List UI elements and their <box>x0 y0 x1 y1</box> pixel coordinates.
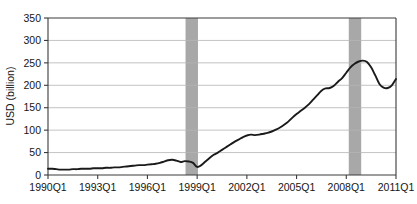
y-tick-label-0: 0 <box>35 169 41 181</box>
x-tick-label-2005Q1: 2005Q1 <box>278 181 316 193</box>
y-tick-label-150: 150 <box>23 101 41 113</box>
usd-billion-line-chart: 050100150200250300350 1990Q11993Q11996Q1… <box>0 0 417 204</box>
y-tick-label-350: 350 <box>23 12 41 24</box>
recession-band-1998 <box>186 18 198 175</box>
y-tick-label-300: 300 <box>23 34 41 46</box>
y-tick-label-100: 100 <box>23 124 41 136</box>
x-tick-label-1999Q1: 1999Q1 <box>178 181 216 193</box>
x-tick-label-2008Q1: 2008Q1 <box>328 181 366 193</box>
x-tick-label-1996Q1: 1996Q1 <box>129 181 167 193</box>
y-tick-label-200: 200 <box>23 79 41 91</box>
recession-band-2008 <box>349 18 361 175</box>
chart-container: 050100150200250300350 1990Q11993Q11996Q1… <box>0 0 417 204</box>
x-tick-label-1990Q1: 1990Q1 <box>29 181 67 193</box>
x-tick-label-2002Q1: 2002Q1 <box>228 181 266 193</box>
y-tick-label-250: 250 <box>23 57 41 69</box>
y-tick-label-50: 50 <box>29 146 41 158</box>
y-axis-title: USD (billion) <box>4 67 16 126</box>
x-tick-label-1993Q1: 1993Q1 <box>79 181 117 193</box>
x-tick-label-2011Q1: 2011Q1 <box>378 181 415 193</box>
